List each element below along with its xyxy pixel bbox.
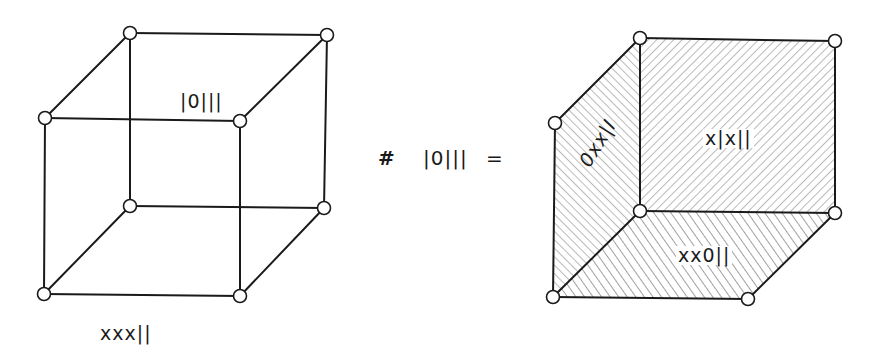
vertex: [549, 117, 562, 130]
right-cube-back-face-label: x|x||: [703, 129, 754, 148]
vertex: [124, 27, 137, 40]
vertex: [829, 35, 842, 48]
left-cube: [38, 27, 334, 303]
left-cube-top-face-label: |0|||: [180, 92, 223, 111]
equals-sign: =: [486, 148, 503, 168]
vertex: [742, 293, 755, 306]
diagram-canvas: [0, 0, 873, 358]
vertex: [634, 205, 647, 218]
face-back: [640, 38, 835, 213]
left-cube-bottom-label: xxx||: [100, 324, 152, 343]
vertex: [547, 291, 560, 304]
vertex: [124, 200, 137, 213]
vertex: [234, 290, 247, 303]
sharp-operand: |0|||: [423, 148, 468, 168]
vertex: [38, 288, 51, 301]
vertex: [318, 202, 331, 215]
vertex: [321, 29, 334, 42]
right-cube-bottom-face-label: xx0||: [676, 246, 732, 265]
vertex: [829, 207, 842, 220]
sharp-operator-symbol: #: [378, 148, 395, 168]
vertex: [634, 32, 647, 45]
vertex: [39, 112, 52, 125]
vertex: [234, 115, 247, 128]
